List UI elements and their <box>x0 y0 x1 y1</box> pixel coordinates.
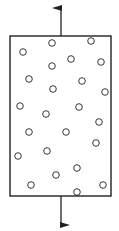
particle <box>102 89 109 96</box>
particle <box>100 182 107 189</box>
particle <box>43 111 50 118</box>
particle <box>93 140 100 147</box>
particle <box>17 103 24 110</box>
particle <box>26 129 33 136</box>
particle <box>96 119 103 126</box>
particle <box>98 59 105 66</box>
particle <box>74 189 81 196</box>
particle <box>68 56 75 63</box>
particle <box>76 104 83 111</box>
particle <box>50 86 57 93</box>
particle <box>20 49 27 56</box>
particle <box>74 165 81 172</box>
particle <box>79 78 86 85</box>
particle <box>26 76 33 83</box>
particles-group <box>15 38 109 196</box>
specimen-box <box>10 36 111 196</box>
particle <box>15 153 22 160</box>
particle <box>88 38 95 45</box>
particle <box>53 172 60 179</box>
particle <box>44 148 51 155</box>
particle <box>49 40 56 47</box>
tension-specimen-diagram <box>0 0 119 231</box>
particle <box>63 129 70 136</box>
particle <box>28 182 35 189</box>
particle <box>49 63 56 70</box>
